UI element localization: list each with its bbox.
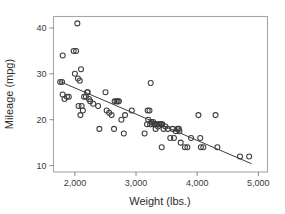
x-tick-label: 5,000: [247, 178, 270, 188]
mileage-vs-weight-scatter-chart: 10203040 2,0003,0004,0005,000 Weight (lb…: [0, 0, 285, 214]
y-tick-label: 20: [36, 115, 46, 125]
y-tick-label: 30: [36, 69, 46, 79]
y-axis-title: Mileage (mpg): [3, 59, 15, 129]
x-tick-label: 4,000: [186, 178, 209, 188]
x-tick-label: 2,000: [64, 178, 87, 188]
x-tick-label: 3,000: [125, 178, 148, 188]
y-tick-label: 40: [36, 23, 46, 33]
x-axis-title: Weight (lbs.): [129, 195, 191, 207]
y-tick-label: 10: [36, 161, 46, 171]
scatter-plot-figure: 10203040 2,0003,0004,0005,000 Weight (lb…: [0, 0, 285, 214]
